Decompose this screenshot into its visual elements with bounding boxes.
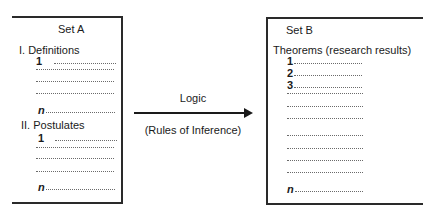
dotted-line	[294, 74, 362, 76]
dotted-line	[294, 62, 362, 64]
set-b-theorem-item: n	[287, 184, 363, 195]
set-b-theorem-item	[287, 135, 363, 137]
dotted-line	[36, 146, 114, 148]
arrow-shaft	[134, 112, 246, 114]
set-a-title: Set A	[58, 23, 84, 35]
dotted-line	[46, 111, 115, 113]
set-a-postulate-item: n	[38, 182, 115, 193]
dotted-line	[287, 171, 363, 173]
set-a-definitions-heading: I. Definitions	[19, 44, 80, 56]
set-a-definition-item: n	[38, 105, 115, 116]
set-b-theorem-item	[287, 118, 363, 120]
set-a-postulates-heading: II. Postulates	[21, 119, 85, 131]
item-number: 1	[287, 56, 293, 67]
set-b-theorem-item	[287, 172, 363, 174]
dotted-line	[287, 117, 363, 119]
set-a-postulate-item	[36, 171, 114, 173]
item-number: n	[38, 105, 45, 116]
dotted-line	[36, 157, 114, 159]
item-number: 3	[287, 80, 293, 91]
dotted-line	[46, 188, 115, 190]
set-b-theorem-item: 3	[287, 80, 362, 91]
set-b-theorem-item	[287, 160, 363, 162]
item-number: n	[38, 182, 45, 193]
set-a-definition-item: 1	[36, 56, 116, 67]
set-a-postulate-item: 1	[38, 133, 117, 144]
set-a-definition-item	[36, 69, 114, 71]
item-number: 1	[38, 133, 44, 144]
dotted-line	[295, 190, 363, 192]
set-b-theorem-item	[287, 148, 363, 150]
dotted-line	[36, 170, 114, 172]
arrow-right-icon	[244, 108, 253, 118]
dotted-line	[36, 92, 114, 94]
dotted-line	[54, 62, 116, 64]
item-number: 1	[36, 56, 42, 67]
dotted-line	[287, 159, 363, 161]
set-a-postulate-item	[36, 158, 114, 160]
dotted-line	[287, 134, 363, 136]
set-b-theorems-heading: Theorems (research results)	[273, 44, 411, 56]
set-a-definition-item	[36, 93, 114, 95]
set-b-title: Set B	[286, 24, 313, 36]
set-a-postulate-item	[36, 147, 114, 149]
arrow-label-logic: Logic	[134, 92, 252, 104]
dotted-line	[55, 139, 117, 141]
dotted-line	[36, 80, 114, 82]
dotted-line	[287, 147, 363, 149]
arrow-label-rules-of-inference: (Rules of Inference)	[134, 124, 252, 136]
item-number: n	[287, 184, 294, 195]
set-a-definition-item	[36, 81, 114, 83]
dotted-line	[36, 68, 114, 70]
dotted-line	[287, 105, 363, 107]
dotted-line	[287, 92, 363, 94]
item-number: 2	[287, 68, 293, 79]
set-b-theorem-item	[287, 106, 363, 108]
set-b-theorem-item	[287, 93, 363, 95]
set-b-theorem-item: 2	[287, 68, 362, 79]
set-b-theorem-item: 1	[287, 56, 362, 67]
dotted-line	[294, 86, 362, 88]
